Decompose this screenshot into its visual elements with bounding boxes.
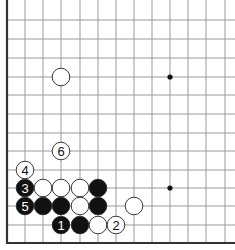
black-stone-3: 3 xyxy=(16,179,34,197)
star-point xyxy=(167,74,172,79)
white-stone xyxy=(52,68,70,86)
black-stone xyxy=(52,197,70,215)
move-number: 6 xyxy=(57,144,64,159)
white-stone xyxy=(89,216,107,234)
move-number: 1 xyxy=(57,218,64,233)
move-number: 2 xyxy=(112,218,119,233)
go-board: 643512 xyxy=(0,0,235,250)
move-number: 4 xyxy=(21,163,28,178)
black-stone xyxy=(89,197,107,215)
star-point xyxy=(167,185,172,190)
black-stone xyxy=(71,216,89,234)
white-stone-2: 2 xyxy=(107,216,125,234)
white-stone xyxy=(52,179,70,197)
white-stone-6: 6 xyxy=(52,142,70,160)
black-stone xyxy=(34,197,52,215)
white-stone xyxy=(71,179,89,197)
move-number: 5 xyxy=(21,199,28,214)
white-stone xyxy=(125,197,143,215)
move-number: 3 xyxy=(21,181,28,196)
black-stone xyxy=(89,179,107,197)
white-stone-4: 4 xyxy=(16,161,34,179)
white-stone xyxy=(71,197,89,215)
white-stone xyxy=(34,179,52,197)
black-stone-5: 5 xyxy=(16,197,34,215)
black-stone-1: 1 xyxy=(52,216,70,234)
